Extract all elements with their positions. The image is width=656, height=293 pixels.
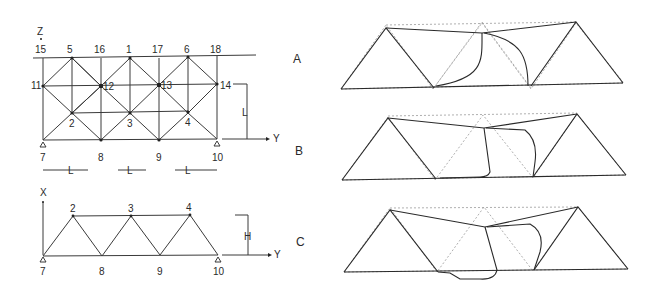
svg-text:6: 6 — [184, 44, 190, 55]
svg-text:9: 9 — [157, 266, 163, 277]
mode-shape-b — [342, 113, 626, 180]
svg-text:15: 15 — [35, 44, 47, 55]
axis-label-y: Y — [273, 133, 280, 144]
svg-text:18: 18 — [210, 44, 222, 55]
svg-text:L: L — [68, 165, 74, 176]
mode-shape-c — [344, 207, 628, 279]
svg-text:16: 16 — [94, 44, 106, 55]
mode-label-b: B — [295, 144, 303, 158]
svg-text:2: 2 — [70, 203, 76, 214]
svg-text:1: 1 — [126, 44, 132, 55]
svg-text:9: 9 — [156, 152, 162, 163]
svg-text:12: 12 — [103, 81, 115, 92]
truss-figure: Z 15 5 16 1 17 6 18 11 12 13 14 2 3 4 7 … — [0, 0, 656, 293]
svg-text:10: 10 — [213, 266, 225, 277]
svg-text:3: 3 — [127, 118, 133, 129]
svg-text:8: 8 — [98, 152, 104, 163]
plan-view-labels: Z 15 5 16 1 17 6 18 11 12 13 14 2 3 4 7 … — [31, 26, 280, 176]
svg-text:4: 4 — [186, 202, 192, 213]
svg-text:L: L — [127, 165, 133, 176]
svg-text:14: 14 — [220, 80, 232, 91]
dimension-l-vertical: L — [242, 107, 248, 118]
axis-label-z: Z — [37, 26, 43, 37]
svg-text:11: 11 — [31, 80, 42, 91]
svg-text:5: 5 — [67, 44, 73, 55]
mode-label-c: C — [296, 235, 305, 249]
mode-label-a: A — [293, 52, 301, 66]
svg-text:10: 10 — [212, 152, 224, 163]
svg-text:2: 2 — [69, 118, 75, 129]
dimension-h: H — [244, 231, 251, 242]
mode-shape-a — [341, 22, 623, 89]
svg-text:7: 7 — [40, 266, 46, 277]
svg-text:L: L — [185, 165, 191, 176]
svg-text:3: 3 — [128, 203, 134, 214]
svg-text:7: 7 — [40, 152, 46, 163]
svg-text:17: 17 — [152, 44, 164, 55]
plan-view-truss — [33, 38, 270, 170]
side-view-labels: X 2 3 4 7 8 9 10 H Y — [40, 187, 281, 277]
axis-label-y-side: Y — [274, 249, 281, 260]
svg-text:8: 8 — [99, 266, 105, 277]
svg-text:13: 13 — [161, 80, 173, 91]
svg-text:4: 4 — [185, 117, 191, 128]
axis-label-x: X — [40, 187, 47, 198]
